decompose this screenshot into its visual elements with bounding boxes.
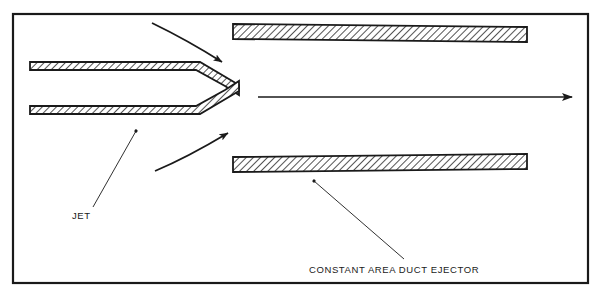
ejector-diagram: JET CONSTANT AREA DUCT EJECTOR: [0, 0, 601, 296]
jet-label: JET: [72, 210, 91, 221]
figure-root: JET CONSTANT AREA DUCT EJECTOR: [0, 0, 601, 296]
duct-upper-wall: [233, 24, 527, 42]
duct-lower-wall: [233, 154, 527, 172]
figure-background: [0, 0, 601, 296]
ejector-label: CONSTANT AREA DUCT EJECTOR: [309, 264, 479, 275]
